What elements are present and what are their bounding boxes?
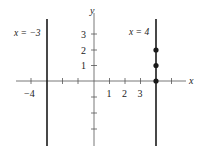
point-4-1 xyxy=(153,63,158,68)
y-axis-label: y xyxy=(89,5,95,16)
y-tick-label-3: 3 xyxy=(81,29,86,40)
x-axis-label: x xyxy=(188,75,194,86)
x-tick-label-neg4: −4 xyxy=(24,88,35,99)
line-label-x-neg3: x = −3 xyxy=(13,28,41,38)
point-4-0 xyxy=(153,78,158,83)
y-tick-label-2: 2 xyxy=(81,45,86,56)
y-tick-label-1: 1 xyxy=(81,60,86,71)
coordinate-plane: y x x = −3 x = 4 3 2 1 −4 1 2 3 xyxy=(0,0,204,153)
point-4-2 xyxy=(153,47,158,52)
x-tick-label-1: 1 xyxy=(107,88,112,99)
x-tick-label-3: 3 xyxy=(138,88,143,99)
x-tick-label-2: 2 xyxy=(122,88,127,99)
line-label-x-4: x = 4 xyxy=(128,27,149,37)
